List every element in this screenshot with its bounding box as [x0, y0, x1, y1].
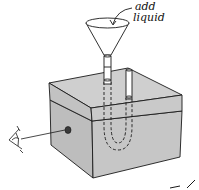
corner-mark: [170, 180, 195, 188]
box-front-right-face: [92, 111, 182, 178]
tube-left: [104, 56, 111, 84]
label-liquid: liquid: [133, 12, 165, 23]
box-u-tube-diagram: [0, 0, 199, 190]
eye-icon: [9, 126, 23, 153]
peephole: [65, 127, 71, 134]
funnel: [86, 18, 129, 57]
tube-right: [126, 69, 132, 99]
